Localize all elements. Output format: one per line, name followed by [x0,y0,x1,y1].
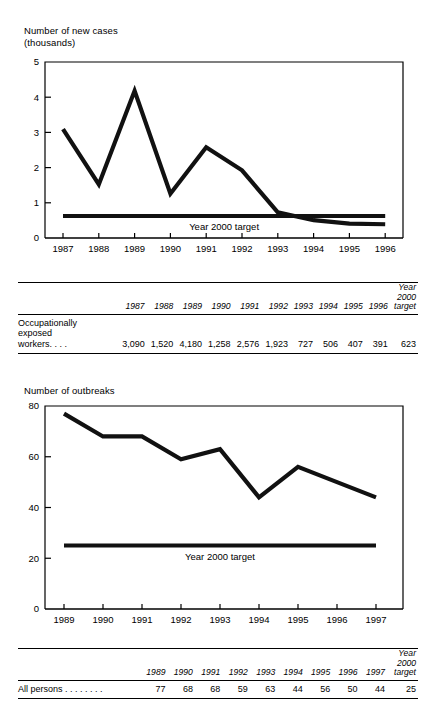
table-cell: 4,180 [175,314,204,354]
table-cell: 44 [360,680,387,699]
x-tick-label: 1989 [124,243,145,254]
table-cell: 63 [250,680,277,699]
table-col-header: 1989 [175,283,204,315]
y-tick-label: 2 [34,162,39,173]
table-col-header: 1991 [233,283,262,315]
x-tick-label: 1990 [160,243,181,254]
x-tick-label: 1991 [196,243,217,254]
table-corner-cell [18,283,118,315]
table-cell: 68 [195,680,222,699]
table-col-header: 1988 [147,283,176,315]
x-tick-label: 1996 [326,614,347,625]
table-col-header: 1995 [305,649,332,681]
table-cell: 3,090 [118,314,147,354]
y-tick-label: 4 [34,92,39,103]
table-cell: 44 [277,680,304,699]
x-tick-label: 1993 [209,614,230,625]
table-cell: 1,923 [261,314,290,354]
table-header-row: 198919901991199219931994199519961997Year… [18,649,418,681]
table-col-header: 1992 [261,283,290,315]
y-tick-label: 80 [28,400,39,411]
data-series-line [63,91,385,224]
x-tick-label: 1995 [287,614,308,625]
table-cell-target: 25 [387,680,418,699]
y-tick-label: 20 [28,553,39,564]
table-cell: 1,258 [204,314,233,354]
target-line-label: Year 2000 target [185,551,255,562]
table-col-header-target: Year 2000 target [387,649,418,681]
table-col-header: 1996 [365,283,390,315]
table-row-label: Occupationally exposed workers. . . . [18,314,118,354]
table-occupationally-exposed: 1987198819891990199119921993199419951996… [18,282,418,354]
y-tick-label: 1 [34,197,39,208]
y-tick-label: 3 [34,127,39,138]
table-all-persons: 198919901991199219931994199519961997Year… [18,648,418,699]
table-col-header: 1990 [204,283,233,315]
figure1-plot: 0123451987198819891990199119921993199419… [0,0,434,265]
target-line-label: Year 2000 target [189,221,259,232]
table-col-header: 1991 [195,649,222,681]
table-col-header: 1987 [118,283,147,315]
y-tick-label: 5 [34,56,39,67]
table-row: All persons . . . . . . . .7768685963445… [18,680,418,699]
y-tick-label: 60 [28,451,39,462]
x-tick-label: 1994 [303,243,324,254]
table-col-header: 1995 [340,283,365,315]
x-tick-label: 1992 [231,243,252,254]
table-col-header-target: Year 2000 target [390,283,418,315]
x-tick-label: 1987 [52,243,73,254]
x-tick-label: 1989 [53,614,74,625]
table-cell: 407 [340,314,365,354]
table-col-header: 1989 [140,649,167,681]
page-root: Number of new cases (thousands) 01234519… [0,0,434,720]
table-corner-cell [18,649,140,681]
y-tick-label: 40 [28,502,39,513]
x-tick-label: 1990 [92,614,113,625]
table-cell: 2,576 [233,314,262,354]
table-cell: 68 [167,680,194,699]
table-cell-target: 623 [390,314,418,354]
plot-frame [45,406,403,609]
table-row: Occupationally exposed workers. . . .3,0… [18,314,418,354]
x-tick-label: 1995 [339,243,360,254]
table-col-header: 1996 [332,649,359,681]
table-col-header: 1997 [360,649,387,681]
figure-outbreaks: Number of outbreaks 02040608019891990199… [0,385,434,630]
table-cell: 1,520 [147,314,176,354]
table-cell: 59 [222,680,249,699]
table-header-row: 1987198819891990199119921993199419951996… [18,283,418,315]
table-cell: 506 [315,314,340,354]
x-tick-label: 1988 [88,243,109,254]
data-series-line [64,414,376,498]
x-tick-label: 1997 [365,614,386,625]
table-col-header: 1994 [277,649,304,681]
table-cell: 391 [365,314,390,354]
table-cell: 50 [332,680,359,699]
x-tick-label: 1991 [131,614,152,625]
x-tick-label: 1996 [375,243,396,254]
x-tick-label: 1993 [267,243,288,254]
table-cell: 77 [140,680,167,699]
figure-new-cases: Number of new cases (thousands) 01234519… [0,0,434,265]
table-col-header: 1993 [290,283,315,315]
table-cell: 56 [305,680,332,699]
plot-frame [45,62,403,238]
table-col-header: 1993 [250,649,277,681]
table-col-header: 1992 [222,649,249,681]
x-tick-label: 1992 [170,614,191,625]
y-tick-label: 0 [34,603,39,614]
table-col-header: 1990 [167,649,194,681]
table-col-header: 1994 [315,283,340,315]
table-cell: 727 [290,314,315,354]
x-tick-label: 1994 [248,614,269,625]
y-tick-label: 0 [34,232,39,243]
table-row-label: All persons . . . . . . . . [18,680,140,699]
figure2-plot: 0204060801989199019911992199319941995199… [0,385,434,630]
